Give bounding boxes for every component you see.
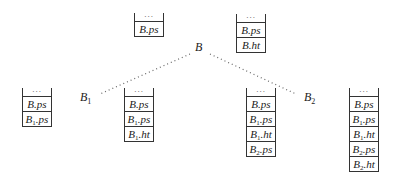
stack-cell: B.ps xyxy=(246,96,276,111)
stack-cell: B1.ps xyxy=(22,111,52,127)
stack-cell: B2.ps xyxy=(349,141,379,156)
stack-cell: B1.ht xyxy=(246,126,276,141)
stack-top-marker: ... xyxy=(349,88,379,96)
stack-top-marker: ... xyxy=(236,14,266,22)
stack-cell: B1.ps xyxy=(124,111,154,126)
stack-cell: B.ps xyxy=(349,96,379,111)
stack-before-B: ... B.ps xyxy=(134,13,164,37)
stack-top-marker: ... xyxy=(246,88,276,96)
stack-after-B1: ... B.ps B1.ps B1.ht xyxy=(124,88,154,142)
stack-before-B1: ... B.ps B1.ps xyxy=(22,88,52,127)
node-label-B: B xyxy=(195,40,202,55)
stack-cell: B2.ps xyxy=(246,141,276,157)
stack-after-B: ... B.ps B.ht xyxy=(236,14,266,53)
stack-cell: B.ps xyxy=(236,22,266,37)
stack-cell: B.ps xyxy=(134,21,164,37)
stack-top-marker: ... xyxy=(124,88,154,96)
stack-top-marker: ... xyxy=(22,88,52,96)
stack-cell: B1.ht xyxy=(124,126,154,142)
stack-cell: B1.ps xyxy=(349,111,379,126)
stack-cell: B2.ht xyxy=(349,156,379,172)
stack-before-B2: ... B.ps B1.ps B1.ht B2.ps xyxy=(246,88,276,157)
stack-after-B2: ... B.ps B1.ps B1.ht B2.ps B2.ht xyxy=(349,88,379,172)
stack-cell: B1.ht xyxy=(349,126,379,141)
stack-cell: B.ht xyxy=(236,37,266,53)
stack-cell: B1.ps xyxy=(246,111,276,126)
stack-cell: B.ps xyxy=(22,96,52,111)
node-label-B2: B2 xyxy=(304,90,315,106)
node-label-B1: B1 xyxy=(80,90,91,106)
stack-top-marker: ... xyxy=(134,13,164,21)
tree-edges xyxy=(0,0,397,188)
stack-cell: B.ps xyxy=(124,96,154,111)
